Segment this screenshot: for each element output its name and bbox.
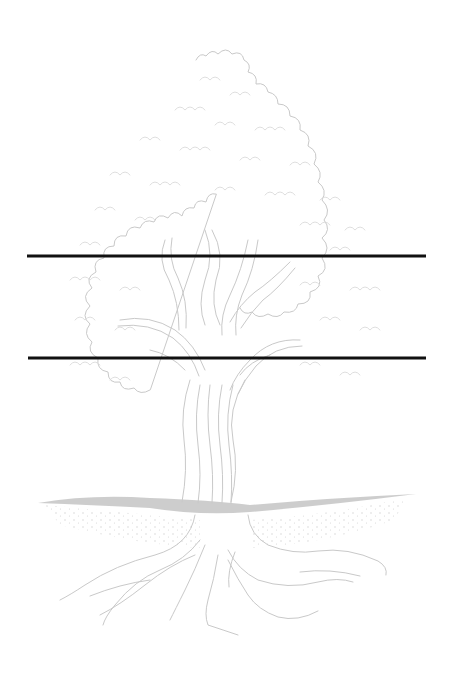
trunk <box>182 380 245 503</box>
tree-sketch <box>0 0 452 683</box>
canopy <box>70 50 380 393</box>
